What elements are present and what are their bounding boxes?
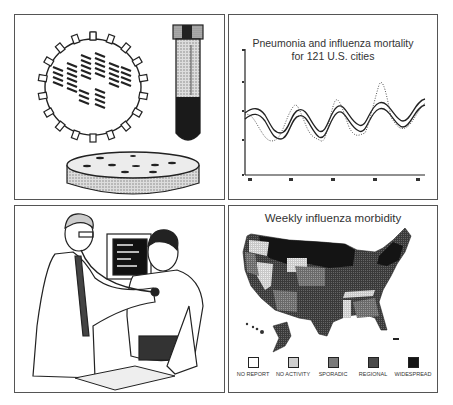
panel-morbidity-map: Weekly influenza morbidity NO <box>228 205 438 393</box>
legend-no-report: NO REPORT <box>233 357 273 377</box>
mortality-line-chart <box>229 15 439 201</box>
doctor-patient-illustration <box>15 206 226 394</box>
legend-label: NO REPORT <box>237 371 270 377</box>
test-tube-icon <box>173 25 203 140</box>
petri-dish-icon <box>67 152 199 194</box>
region-sporadic-central <box>295 266 325 286</box>
legend-label: REGIONAL <box>359 371 387 377</box>
state-mississippi <box>343 300 351 318</box>
panel-virus-illustration <box>14 14 225 200</box>
monitor-icon <box>107 234 151 279</box>
legend-swatch <box>328 357 339 368</box>
legend-swatch <box>288 357 299 368</box>
state-hawaii <box>246 323 264 334</box>
puerto-rico <box>393 338 399 340</box>
virus-illustration <box>15 15 226 201</box>
panel-doctor-illustration <box>14 205 225 393</box>
legend-label: WIDESPREAD <box>395 371 432 377</box>
legend-swatch <box>368 357 379 368</box>
map-legend: NO REPORT NO ACTIVITY SPORADIC REGIONAL … <box>233 357 433 377</box>
legend-no-activity: NO ACTIVITY <box>273 357 313 377</box>
legend-label: NO ACTIVITY <box>276 371 310 377</box>
legend-label: SPORADIC <box>319 371 348 377</box>
panel-mortality-chart: Pneumonia and influenza mortality for 12… <box>228 14 438 200</box>
legend-widespread: WIDESPREAD <box>393 357 433 377</box>
legend-regional: REGIONAL <box>353 357 393 377</box>
state-alaska <box>273 322 291 352</box>
legend-sporadic: SPORADIC <box>313 357 353 377</box>
legend-swatch <box>248 357 259 368</box>
legend-swatch <box>408 357 419 368</box>
virus-icon <box>38 32 147 142</box>
